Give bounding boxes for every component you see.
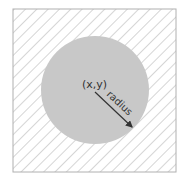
circle-diagram: (x,y) radius [0, 0, 187, 183]
center-label: (x,y) [82, 78, 107, 91]
